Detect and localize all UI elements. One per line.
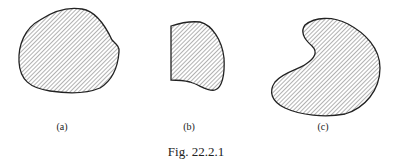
figure-caption: Fig. 22.2.1 <box>136 144 256 160</box>
shape-b-region <box>171 22 224 91</box>
panel-label-a: (a) <box>47 121 77 132</box>
figure-canvas <box>0 0 396 164</box>
shape-a-region <box>19 8 119 92</box>
shape-c-region <box>272 18 380 115</box>
panel-label-c: (c) <box>308 121 338 132</box>
panel-label-b: (b) <box>174 121 204 132</box>
